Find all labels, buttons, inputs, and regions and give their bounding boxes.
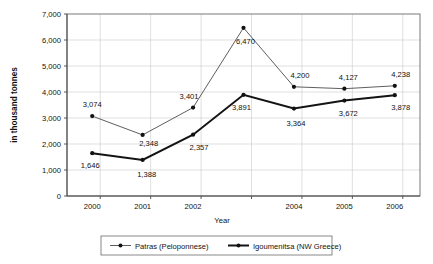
data-point-label: 1,646	[81, 161, 100, 170]
x-tick-label: 2004	[285, 202, 302, 211]
legend-label-patras[interactable]: Patras (Peloponnese)	[135, 242, 209, 251]
y-tick-label: 4,000	[42, 88, 61, 97]
data-point-label: 6,470	[236, 37, 255, 46]
data-point-label: 3,401	[180, 92, 199, 101]
data-point-marker	[292, 85, 296, 89]
data-point-label: 4,238	[391, 70, 410, 79]
chart-canvas: 01,0002,0003,0004,0005,0006,0007,000 200…	[0, 0, 433, 264]
data-point-label: 3,672	[339, 109, 358, 118]
data-point-label: 2,348	[139, 139, 158, 148]
legend-marker-igoumenitsa	[237, 244, 241, 248]
data-point-label: 4,127	[339, 73, 358, 82]
data-point-marker	[393, 93, 397, 97]
legend-label-igoumenitsa[interactable]: Igoumenitsa (NW Greece)	[253, 242, 342, 251]
x-tick-label: 2002	[185, 202, 202, 211]
x-axis-title: Year	[214, 216, 230, 225]
data-point-marker	[191, 105, 195, 109]
x-tick-label: 2000	[84, 202, 101, 211]
data-point-marker	[241, 26, 245, 30]
data-point-marker	[241, 93, 245, 97]
x-tick-label: 2006	[386, 202, 403, 211]
data-point-marker	[292, 106, 296, 110]
data-point-marker	[342, 87, 346, 91]
y-tick-label: 7,000	[42, 10, 61, 19]
data-point-marker	[191, 133, 195, 137]
line-chart: 01,0002,0003,0004,0005,0006,0007,000 200…	[0, 0, 433, 264]
y-tick-label: 2,000	[42, 140, 61, 149]
data-point-marker	[141, 158, 145, 162]
data-point-marker	[393, 84, 397, 88]
y-axis-ticks: 01,0002,0003,0004,0005,0006,0007,000	[42, 10, 67, 201]
legend-marker-patras	[119, 244, 123, 248]
data-point-marker	[90, 114, 94, 118]
data-point-marker	[90, 151, 94, 155]
y-tick-label: 3,000	[42, 114, 61, 123]
data-point-label: 1,388	[137, 170, 156, 179]
y-tick-label: 6,000	[42, 36, 61, 45]
x-tick-label: 2005	[336, 202, 353, 211]
y-tick-label: 0	[57, 192, 61, 201]
data-point-label: 2,357	[190, 143, 209, 152]
data-point-label: 4,200	[290, 71, 309, 80]
y-tick-label: 5,000	[42, 62, 61, 71]
data-point-marker	[141, 133, 145, 137]
data-point-marker	[342, 98, 346, 102]
data-point-label: 3,364	[286, 119, 305, 128]
y-axis-title: in thousand tonnes	[10, 67, 19, 143]
x-tick-label: 2001	[134, 202, 151, 211]
data-point-label: 3,891	[232, 103, 251, 112]
data-point-label: 3,074	[83, 100, 102, 109]
chart-legend: Patras (Peloponnese) Igoumenitsa (NW Gre…	[101, 236, 342, 255]
y-tick-label: 1,000	[42, 166, 61, 175]
x-axis-ticks: 200020012002200420052006	[84, 196, 403, 211]
data-point-label: 3,878	[391, 103, 410, 112]
